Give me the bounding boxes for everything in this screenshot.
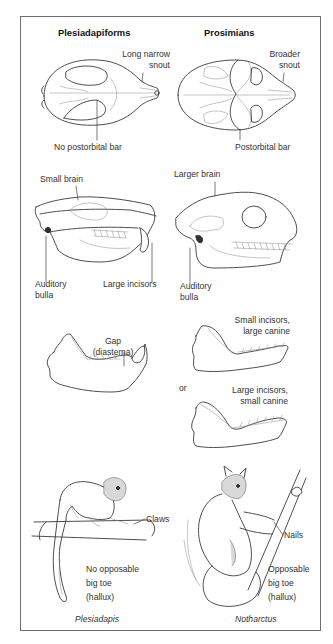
species-name-notharctus: Notharctus — [235, 614, 277, 625]
label-or: or — [179, 383, 187, 394]
label-line: Gap — [88, 336, 138, 347]
label-postorbital-bar: Postorbital bar — [235, 142, 290, 153]
label-long-narrow-snout: Long narrow snout — [118, 49, 170, 71]
plesiadapiform-skull-side-icon — [35, 197, 156, 262]
label-nails: Nails — [284, 530, 303, 541]
label-gap-diastema: Gap (diastema) — [88, 336, 138, 358]
label-line: large canine — [218, 326, 290, 337]
label-line: bulla — [35, 290, 67, 301]
label-auditory-bulla-right: Auditory bulla — [180, 281, 212, 303]
label-line: Small incisors, — [218, 315, 290, 326]
header-plesiadapiforms: Plesiadapiforms — [58, 27, 130, 38]
label-broader-snout: Broader snout — [262, 49, 300, 71]
label-line: (diastema) — [88, 347, 138, 358]
label-line: snout — [118, 60, 170, 71]
label-line: Opposable — [268, 562, 310, 576]
header-prosimians: Prosimians — [204, 27, 255, 38]
label-auditory-bulla-left: Auditory bulla — [35, 279, 67, 301]
label-no-postorbital-bar: No postorbital bar — [54, 142, 122, 153]
label-large-incisors: Large incisors — [103, 279, 157, 290]
label-large-incisors-small-canine: Large incisors, small canine — [218, 385, 288, 407]
label-line: big toe — [268, 576, 310, 590]
species-name-plesiadapis: Plesiadapis — [75, 614, 119, 625]
label-line: Long narrow — [118, 49, 170, 60]
prosimian-skull-side-icon — [176, 192, 297, 268]
label-line: bulla — [180, 292, 212, 303]
prosimian-jaw-lower-icon — [192, 402, 287, 448]
label-line: (hallux) — [86, 590, 139, 604]
label-line: big toe — [86, 576, 139, 590]
label-line: snout — [262, 60, 300, 71]
label-line: (hallux) — [268, 590, 310, 604]
label-opposable-big-toe: Opposable big toe (hallux) — [268, 562, 310, 604]
label-larger-brain: Larger brain — [174, 169, 220, 180]
label-no-opposable-big-toe: No opposable big toe (hallux) — [86, 562, 139, 604]
label-small-brain: Small brain — [40, 174, 83, 185]
label-line: Auditory — [180, 281, 212, 292]
label-line: Auditory — [35, 279, 67, 290]
label-line: Broader — [262, 49, 300, 60]
label-line: Large incisors, — [218, 385, 288, 396]
label-small-incisors-large-canine: Small incisors, large canine — [218, 315, 290, 337]
label-line: No opposable — [86, 562, 139, 576]
label-claws: Claws — [146, 514, 169, 525]
label-line: small canine — [218, 396, 288, 407]
